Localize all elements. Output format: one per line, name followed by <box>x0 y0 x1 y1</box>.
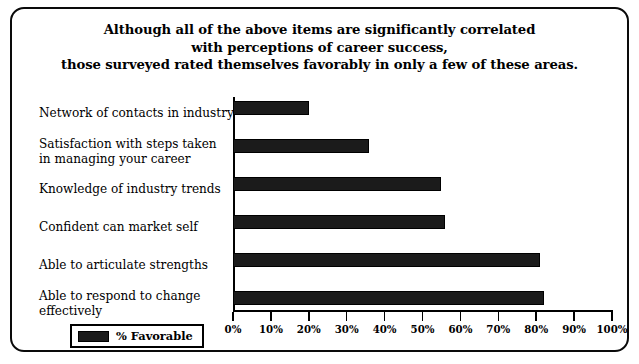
x-tick-30% <box>346 312 348 321</box>
x-tick-80% <box>535 312 537 321</box>
x-tick-label-90%: 90% <box>562 323 586 335</box>
category-label-network-of-contacts: Network of contacts in industry <box>39 106 234 121</box>
bar-network-of-contacts <box>233 101 309 115</box>
legend-label-favorable: % Favorable <box>116 329 193 343</box>
x-tick-label-20%: 20% <box>297 323 321 335</box>
category-label-confident-market-self: Confident can market self <box>39 220 198 235</box>
x-tick-label-50%: 50% <box>411 323 435 335</box>
x-tick-100% <box>611 312 613 321</box>
x-tick-label-40%: 40% <box>373 323 397 335</box>
x-tick-label-0%: 0% <box>225 323 242 335</box>
chart-title-line-3: those surveyed rated themselves favorabl… <box>12 56 627 74</box>
x-tick-50% <box>422 312 424 321</box>
x-tick-label-60%: 60% <box>448 323 472 335</box>
x-tick-70% <box>498 312 500 321</box>
x-tick-60% <box>460 312 462 321</box>
chart-title-line-1: Although all of the above items are sign… <box>12 21 627 39</box>
x-tick-label-100%: 100% <box>597 323 628 335</box>
x-tick-label-10%: 10% <box>259 323 283 335</box>
category-label-articulate-strengths: Able to articulate strengths <box>39 258 208 273</box>
chart-title: Although all of the above items are sign… <box>12 21 627 74</box>
x-tick-20% <box>308 312 310 321</box>
bar-articulate-strengths <box>233 253 540 267</box>
bar-satisfaction-with-steps <box>233 139 369 153</box>
legend: % Favorable <box>70 324 204 348</box>
plot-area: 0%10%20%30%40%50%60%70%80%90%100% <box>223 97 613 317</box>
bar-respond-to-change <box>233 291 544 305</box>
x-tick-40% <box>384 312 386 321</box>
x-tick-label-30%: 30% <box>335 323 359 335</box>
x-tick-label-80%: 80% <box>524 323 548 335</box>
chart-title-line-2: with perceptions of career success, <box>12 39 627 57</box>
category-label-satisfaction-with-steps: Satisfaction with steps taken in managin… <box>39 137 217 166</box>
bar-knowledge-industry-trends <box>233 177 441 191</box>
x-tick-90% <box>573 312 575 321</box>
x-tick-10% <box>270 312 272 321</box>
category-label-knowledge-industry-trends: Knowledge of industry trends <box>39 182 221 197</box>
chart-frame: Although all of the above items are sign… <box>10 7 629 352</box>
y-axis-line <box>233 97 235 312</box>
category-label-respond-to-change: Able to respond to change effectively <box>39 289 200 318</box>
x-tick-0% <box>232 312 234 321</box>
x-tick-label-70%: 70% <box>486 323 510 335</box>
legend-swatch-favorable <box>78 331 109 342</box>
bar-confident-market-self <box>233 215 445 229</box>
